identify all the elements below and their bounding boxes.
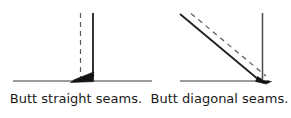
diagonal-seam-allowance-wedge — [256, 77, 272, 85]
seam-illustration-figure: Butt straight seams. Butt diagonal seams… — [0, 0, 291, 118]
diagonal-seam-diagram — [180, 13, 272, 84]
straight-seam-allowance-wedge — [71, 72, 94, 83]
diagonal-dashed-stitch-line — [191, 14, 266, 77]
diagonal-solid-seam-line — [180, 14, 259, 80]
caption-diagonal-seams: Butt diagonal seams. — [148, 91, 291, 106]
straight-seam-diagram — [13, 13, 152, 83]
caption-straight-seams: Butt straight seams. — [0, 91, 152, 106]
